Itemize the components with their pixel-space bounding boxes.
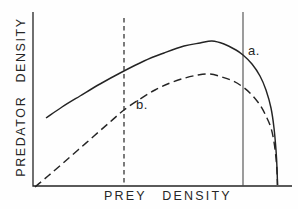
x-axis-label: PREY DENSITY — [104, 189, 232, 203]
curve-a-label: a. — [248, 43, 260, 58]
plot-canvas — [0, 0, 298, 209]
curve-b — [35, 74, 278, 187]
predator-prey-figure: PREDATOR DENSITY PREY DENSITY a. b. — [0, 0, 298, 209]
y-axis-label: PREDATOR DENSITY — [14, 17, 28, 177]
curve-b-label: b. — [136, 97, 148, 112]
axes — [33, 12, 292, 186]
